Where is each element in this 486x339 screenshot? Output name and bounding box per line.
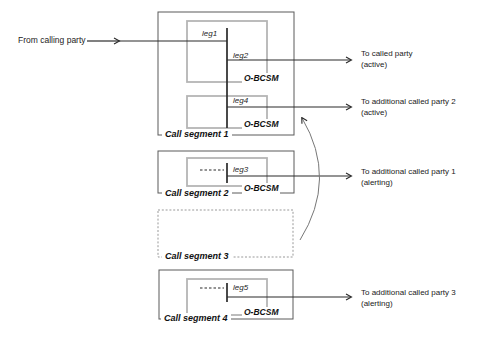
- call-segment-2-label: Call segment 2: [162, 188, 232, 199]
- destination-label-3: To additional called party 1 (alerting): [361, 166, 456, 188]
- call-segment-4-label: Call segment 4: [161, 313, 231, 324]
- call-segment-3-label: Call segment 3: [162, 251, 232, 262]
- obcsm-label-2: O-BCSM: [242, 119, 280, 130]
- from-calling-party-label: From calling party: [18, 35, 86, 46]
- destination-1-line1: To called party: [361, 48, 413, 59]
- obcsm-label-1: O-BCSM: [242, 73, 280, 84]
- leg5-label: leg5: [233, 282, 248, 293]
- leg3-label: leg3: [233, 164, 248, 175]
- destination-label-1: To called party (active): [361, 48, 413, 70]
- obcsm-label-3: O-BCSM: [242, 183, 280, 194]
- destination-label-4: To additional called party 3 (alerting): [361, 287, 456, 309]
- destination-4-line2: (alerting): [361, 298, 456, 309]
- call-segment-3-dashed-box: [158, 210, 293, 257]
- curved-move-arrow: [300, 118, 320, 240]
- obcsm-label-4: O-BCSM: [242, 307, 280, 318]
- destination-3-line1: To additional called party 1: [361, 166, 456, 177]
- destination-2-line2: (active): [361, 107, 456, 118]
- destination-4-line1: To additional called party 3: [361, 287, 456, 298]
- diagram-canvas: From calling party leg1 leg2 leg4 leg3 l…: [0, 0, 486, 339]
- leg1-label: leg1: [202, 28, 217, 39]
- destination-2-line1: To additional called party 2: [361, 96, 456, 107]
- leg2-label: leg2: [233, 50, 248, 61]
- destination-3-line2: (alerting): [361, 177, 456, 188]
- call-segment-1-label: Call segment 1: [162, 129, 232, 140]
- destination-1-line2: (active): [361, 59, 413, 70]
- leg4-label: leg4: [233, 95, 248, 106]
- destination-label-2: To additional called party 2 (active): [361, 96, 456, 118]
